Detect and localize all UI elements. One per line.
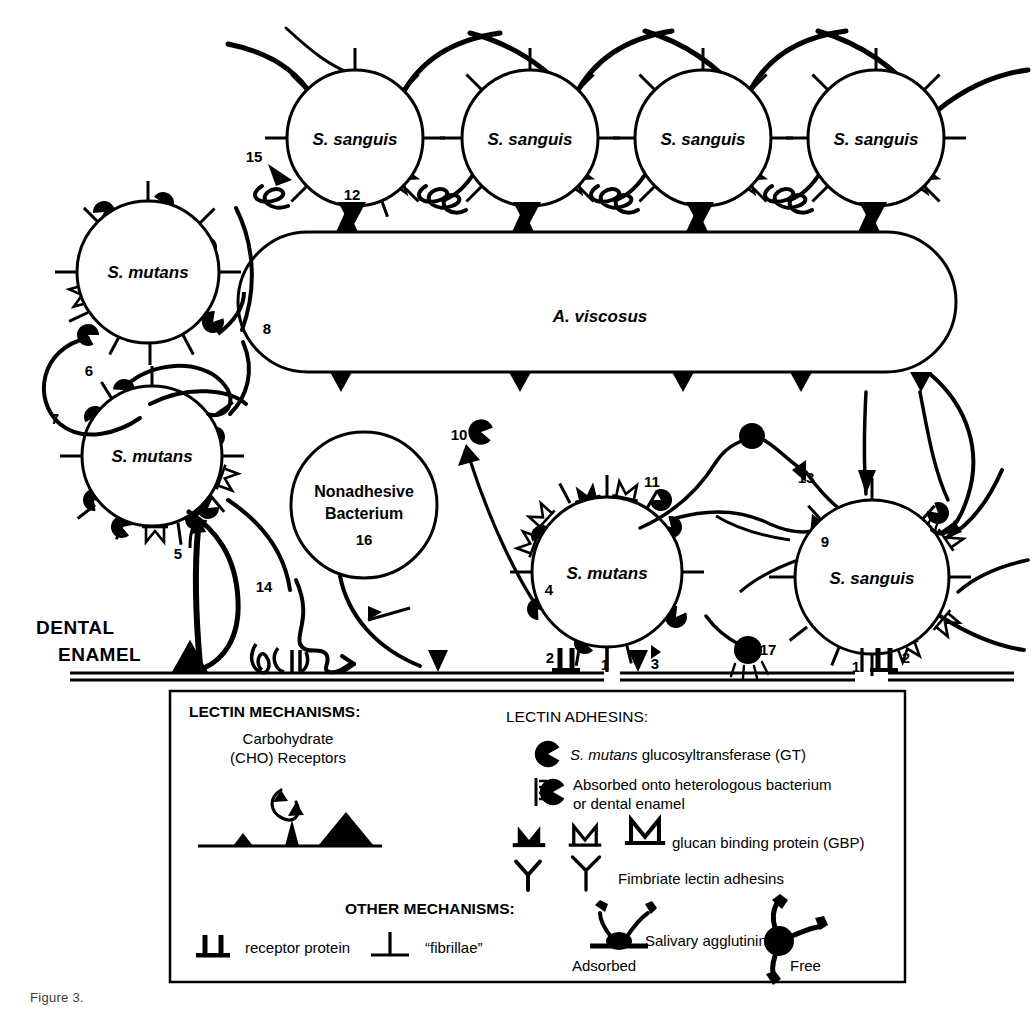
callout-16: 16 — [356, 531, 373, 548]
figure-caption: Figure 3. — [30, 990, 84, 1005]
callout-14: 14 — [256, 578, 273, 595]
callout-10: 10 — [451, 426, 468, 443]
a-viscosus-fimbriae — [330, 372, 932, 392]
callout-8: 8 — [263, 320, 271, 337]
callout-11: 11 — [644, 473, 660, 490]
cell-label-s-sanguis-2: S. sanguis — [487, 130, 572, 149]
cell-s-sanguis-top-4: S. sanguis — [786, 48, 966, 228]
legend-heading-lectin-mechanisms: LECTIN MECHANISMS: — [189, 703, 360, 720]
nonadhesive-lower-strands — [340, 576, 420, 666]
legend-gt-text: S. mutans glucosyltransferase (GT) — [570, 746, 806, 763]
cell-label-a-viscosus: A. viscosus — [552, 307, 648, 326]
legend-adsorbed-line1: Absorbed onto heterologous bacterium — [573, 776, 832, 793]
legend-gt-desc: glucosyltransferase (GT) — [638, 746, 806, 763]
legend-adsorbed-line2: or dental enamel — [573, 795, 685, 812]
callout-13: 13 — [798, 469, 815, 486]
legend-fimbriae-text: Fimbriate lectin adhesins — [618, 870, 784, 887]
cell-label-s-sanguis-1: S. sanguis — [312, 130, 397, 149]
legend-receptor-protein-text: receptor protein — [245, 939, 350, 956]
dental-enamel-label: DENTAL ENAMEL — [36, 617, 141, 665]
callout-15: 15 — [246, 148, 263, 165]
callout-2b: 2 — [902, 649, 910, 666]
cell-s-sanguis-top-3: S. sanguis — [613, 48, 793, 228]
legend-cho-line2: (CHO) Receptors — [230, 749, 346, 766]
adhesion-diagram: A. viscosus S. sanguis — [0, 0, 1031, 1010]
enamel-label-line2: ENAMEL — [58, 644, 141, 665]
enamel-label-line1: DENTAL — [36, 617, 115, 638]
released-gt-10 — [458, 417, 538, 608]
cell-label-s-mutans-center: S. mutans — [566, 564, 647, 583]
callout-4: 4 — [545, 581, 554, 598]
callout-1b: 1 — [852, 658, 860, 675]
cell-label-nonadhesive-line1: Nonadhesive — [314, 483, 414, 500]
legend-cho-line1: Carbohydrate — [243, 730, 334, 747]
legend-adsorbed-sub: Adsorbed — [572, 957, 636, 974]
legend-heading-other-mechanisms: OTHER MECHANISMS: — [345, 900, 515, 917]
figure-root: A. viscosus S. sanguis — [0, 0, 1031, 1010]
callout-3: 3 — [651, 655, 659, 672]
callout-2a: 2 — [546, 649, 554, 666]
callout-6: 6 — [85, 362, 93, 379]
legend-salivary-agglutinin-text: Salivary agglutinin — [645, 932, 767, 949]
callout-5: 5 — [174, 545, 182, 562]
cell-label-nonadhesive-line2: Bacterium — [325, 505, 403, 522]
cell-a-viscosus: A. viscosus — [238, 232, 956, 372]
cell-s-sanguis-top-2: S. sanguis — [440, 48, 620, 228]
callout-1a: 1 — [601, 656, 609, 673]
callout-9: 9 — [821, 533, 829, 550]
cell-nonadhesive-bacterium: Nonadhesive Bacterium — [291, 432, 437, 578]
callout-17: 17 — [760, 641, 777, 658]
cell-label-s-mutans-upper: S. mutans — [107, 263, 188, 282]
legend-gbp-text: glucan binding protein (GBP) — [672, 834, 865, 851]
cell-label-s-sanguis-4: S. sanguis — [833, 130, 918, 149]
cell-s-sanguis-right: S. sanguis — [769, 478, 971, 676]
legend-heading-lectin-adhesins: LECTIN ADHESINS: — [506, 708, 648, 725]
legend-fibrillae-text: “fibrillae” — [425, 939, 483, 956]
callout-7: 7 — [51, 410, 59, 427]
legend-gt-species: S. mutans — [570, 746, 638, 763]
cell-label-s-mutans-lower: S. mutans — [111, 447, 192, 466]
callout-12: 12 — [344, 186, 361, 203]
cell-s-mutans-center: S. mutans — [510, 475, 704, 669]
cell-label-s-sanguis-right: S. sanguis — [829, 569, 914, 588]
salivary-agglutinin-bridge-13 — [716, 423, 852, 518]
cell-label-s-sanguis-3: S. sanguis — [660, 130, 745, 149]
legend-free-sub: Free — [790, 957, 821, 974]
